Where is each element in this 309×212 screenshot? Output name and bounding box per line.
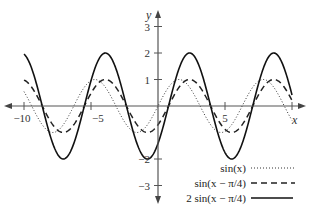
legend-label-2sin-shift: 2 sin(x − π/4) <box>186 192 246 205</box>
legend-label-sin-shift: sin(x − π/4) <box>195 177 247 190</box>
x-tick-label: −5 <box>92 112 104 124</box>
sine-chart: −10−55 321−2−3 x y sin(x) sin(x − π/4) 2… <box>0 0 309 212</box>
y-tick-label: −3 <box>138 180 150 192</box>
x-axis-left-arrow <box>4 103 12 109</box>
y-axis-label: y <box>145 8 152 22</box>
y-tick-label: 3 <box>145 21 151 33</box>
legend: sin(x) sin(x − π/4) 2 sin(x − π/4) <box>186 162 295 205</box>
axes: −10−55 321−2−3 x y <box>4 8 306 204</box>
y-tick-label: −2 <box>138 153 150 165</box>
x-axis-label: x <box>291 113 298 127</box>
legend-label-sin: sin(x) <box>220 162 246 175</box>
y-axis-up-arrow <box>155 10 161 18</box>
y-axis-down-arrow <box>155 196 161 204</box>
x-tick-label: 5 <box>222 112 228 124</box>
x-axis-right-arrow <box>298 103 306 109</box>
x-tick-label: −10 <box>13 112 31 124</box>
y-tick-label: 2 <box>145 47 151 59</box>
y-tick-label: 1 <box>145 74 151 86</box>
